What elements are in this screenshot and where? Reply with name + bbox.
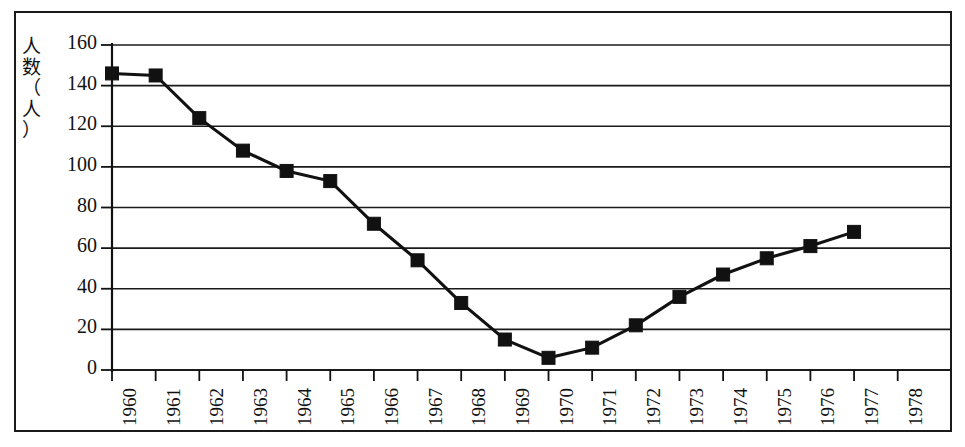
- x-tick-label: 1975: [774, 388, 796, 426]
- y-tick-label: 0: [87, 356, 97, 379]
- x-axis-ticks: [112, 370, 898, 381]
- y-tick-label: 80: [77, 194, 97, 217]
- y-tick-label: 20: [77, 315, 97, 338]
- y-axis-ticks: [101, 45, 112, 370]
- data-line: [112, 73, 854, 357]
- x-tick-label: 1965: [337, 388, 359, 426]
- x-tick-label: 1978: [905, 388, 927, 426]
- x-tick-label: 1967: [425, 388, 447, 426]
- x-tick-label: 1977: [861, 388, 883, 426]
- gridlines: [112, 45, 950, 370]
- x-tick-label: 1974: [730, 388, 752, 426]
- x-tick-label: 1976: [817, 388, 839, 426]
- y-tick-label: 160: [67, 31, 97, 54]
- y-tick-label: 120: [67, 112, 97, 135]
- x-tick-label: 1961: [163, 388, 185, 426]
- y-tick-label: 60: [77, 234, 97, 257]
- x-tick-label: 1964: [294, 388, 316, 426]
- x-tick-label: 1973: [686, 388, 708, 426]
- x-tick-label: 1962: [206, 388, 228, 426]
- y-tick-label: 140: [67, 72, 97, 95]
- chart-page: 人 数 （ 人 ） 020406080100120140160 19601961…: [0, 0, 965, 447]
- x-tick-label: 1966: [381, 388, 403, 426]
- x-tick-label: 1963: [250, 388, 272, 426]
- x-tick-label: 1969: [512, 388, 534, 426]
- x-tick-label: 1972: [643, 388, 665, 426]
- line-chart: [0, 0, 965, 447]
- y-tick-label: 40: [77, 275, 97, 298]
- x-tick-label: 1970: [556, 388, 578, 426]
- x-tick-label: 1968: [468, 388, 490, 426]
- x-tick-label: 1971: [599, 388, 621, 426]
- y-tick-label: 100: [67, 153, 97, 176]
- x-tick-label: 1960: [119, 388, 141, 426]
